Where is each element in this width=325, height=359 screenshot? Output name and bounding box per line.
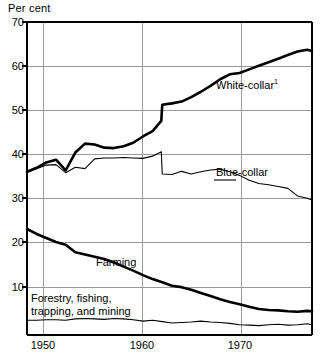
footnote-marker-1: 1	[274, 78, 278, 85]
series-label-white-collar-text: White-collar	[216, 79, 274, 91]
series-line-blue-collar	[27, 152, 312, 200]
series-label-blue-collar: Blue-collar	[216, 166, 268, 178]
series-line-white-collar	[27, 50, 312, 172]
chart-root: Per cent 70 60 50 40 30 20 10 1950 1960 …	[0, 0, 325, 359]
plot-frame	[27, 22, 312, 335]
series-label-forestry: Forestry, fishing, trapping, and mining	[31, 292, 131, 318]
series-label-forestry-line1: Forestry, fishing,	[31, 292, 131, 305]
series-label-forestry-line2: trapping, and mining	[31, 305, 131, 318]
vertical-gridlines	[43, 22, 241, 335]
series-label-farming: Farming	[96, 256, 136, 268]
series-label-white-collar: White-collar1	[216, 78, 278, 91]
y-tick-marks	[22, 22, 27, 287]
horizontal-gridlines	[27, 66, 312, 287]
series-line-forestry	[27, 318, 312, 325]
